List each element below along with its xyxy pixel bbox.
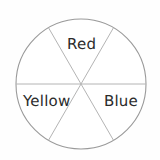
sector-label-blue: Blue xyxy=(104,94,138,109)
spinner-figure: Red Yellow Blue xyxy=(0,0,160,160)
sector-label-red: Red xyxy=(67,37,96,52)
spinner-svg xyxy=(0,0,160,160)
sector-label-yellow: Yellow xyxy=(23,94,70,109)
